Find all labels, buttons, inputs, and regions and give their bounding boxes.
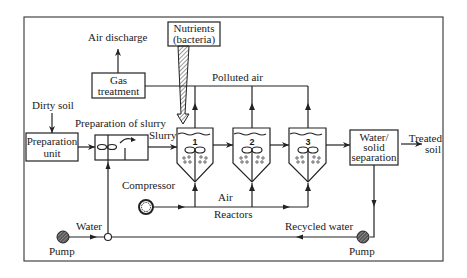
treated-soil-label-2: soil <box>425 143 441 155</box>
pump-left-label: Pump <box>49 245 75 257</box>
nutrients-box: Nutrients (bacteria) <box>168 22 220 46</box>
compressor-label: Compressor <box>122 179 176 191</box>
svg-text:treatment: treatment <box>98 85 140 97</box>
recycled-water-label: Recycled water <box>285 220 353 232</box>
air-discharge-label: Air discharge <box>88 31 147 43</box>
process-diagram: Air discharge Gas treatment Polluted air… <box>0 0 467 278</box>
svg-text:1: 1 <box>192 137 197 147</box>
gas-treatment-box: Gas treatment <box>92 73 145 98</box>
svg-text:(bacteria): (bacteria) <box>173 33 215 46</box>
slurry-label: Slurry <box>149 129 177 141</box>
polluted-air-label: Polluted air <box>212 71 263 83</box>
reactor-3: 3 <box>289 128 326 182</box>
preparation-of-slurry-label: Preparation of slurry <box>75 117 167 129</box>
pump-right-label: Pump <box>349 245 375 257</box>
pump-right-icon <box>357 231 369 243</box>
water-solid-separation-box: Water/ solid separation <box>350 130 398 165</box>
junction-node <box>105 234 112 241</box>
svg-text:unit: unit <box>43 147 60 159</box>
pump-left-icon <box>57 231 69 243</box>
air-label: Air <box>218 191 233 203</box>
nutrients-feed-arrow <box>177 46 189 124</box>
svg-text:2: 2 <box>249 137 254 147</box>
svg-text:Preparation: Preparation <box>27 135 78 147</box>
preparation-unit-box: Preparation unit <box>26 133 78 161</box>
compressor-icon <box>139 200 153 214</box>
svg-text:separation: separation <box>351 151 397 163</box>
reactor-1: 1 <box>177 128 213 182</box>
svg-text:3: 3 <box>305 137 310 147</box>
dirty-soil-label: Dirty soil <box>32 99 74 111</box>
slurry-mixer-tank <box>95 135 148 160</box>
reactors-label: Reactors <box>214 208 252 220</box>
reactor-2: 2 <box>233 128 270 182</box>
water-label: Water <box>76 220 102 232</box>
